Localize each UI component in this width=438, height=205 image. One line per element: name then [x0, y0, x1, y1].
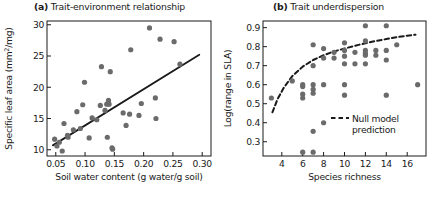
data-point: [153, 95, 158, 100]
data-point: [363, 38, 368, 43]
y-tick-label: 0.3: [246, 136, 260, 147]
data-point: [384, 57, 389, 62]
data-point: [65, 135, 70, 140]
data-point: [300, 150, 305, 155]
null-model-curve: [272, 35, 415, 113]
data-point: [60, 148, 65, 153]
data-point: [78, 126, 83, 131]
legend-label-line1: Null model: [352, 113, 399, 124]
data-point: [363, 23, 368, 28]
legend-label-line2: prediction: [352, 124, 396, 135]
x-axis-title: Soil water content (g water/g soil): [55, 171, 202, 182]
y-tick-label: 20: [33, 82, 45, 93]
data-point: [311, 82, 316, 87]
data-point: [147, 25, 152, 30]
y-axis-title: Specific leaf area (mm2/mg): [3, 27, 14, 149]
data-point: [415, 82, 420, 87]
data-point: [363, 53, 368, 58]
data-point: [269, 95, 274, 100]
data-point: [352, 61, 357, 66]
data-point: [123, 123, 128, 128]
data-point: [94, 117, 99, 122]
y-tick-label: 15: [33, 113, 45, 124]
data-point: [363, 61, 368, 66]
data-point: [80, 102, 85, 107]
data-point: [57, 140, 62, 145]
data-point: [394, 42, 399, 47]
data-point: [110, 147, 115, 152]
x-tick-label: 6: [300, 158, 306, 169]
x-tick-label: 10: [339, 158, 351, 169]
data-point: [153, 116, 158, 121]
x-tick-label: 4: [279, 158, 285, 169]
data-point: [311, 129, 316, 134]
x-tick-label: 16: [402, 158, 414, 169]
y-tick-label: 0.4: [246, 117, 260, 128]
data-point: [52, 137, 57, 142]
y-tick-label: 10: [33, 144, 45, 155]
x-tick-label: 0.05: [46, 158, 66, 169]
data-point: [384, 48, 389, 53]
data-point: [136, 113, 141, 118]
data-point: [384, 93, 389, 98]
data-point: [90, 115, 95, 120]
x-axis-title: Species richness: [308, 171, 381, 182]
data-point: [311, 91, 316, 96]
data-point: [300, 95, 305, 100]
x-tick-label: 8: [321, 158, 327, 169]
y-tick-label: 30: [33, 19, 45, 30]
data-point: [106, 102, 111, 107]
data-point: [172, 39, 177, 44]
panel-b-plot: 0.30.40.50.60.70.80.946810121416Species …: [219, 0, 438, 205]
data-point: [321, 120, 326, 125]
data-point: [342, 93, 347, 98]
figure-container: (a) Trait-environment relationship 10152…: [0, 0, 438, 205]
data-point: [373, 53, 378, 58]
data-point: [121, 110, 126, 115]
x-tick-label: 0.30: [193, 158, 213, 169]
y-axis-title: Log(range in SLA): [222, 50, 233, 128]
y-tick-label: 0.7: [246, 60, 260, 71]
data-point: [82, 80, 87, 85]
x-tick-label: 0.25: [163, 158, 183, 169]
data-point: [342, 54, 347, 59]
data-point: [342, 48, 347, 53]
data-point: [139, 101, 144, 106]
data-point: [74, 109, 79, 114]
data-point: [342, 61, 347, 66]
data-point: [108, 69, 113, 74]
y-tick-label: 25: [33, 50, 45, 61]
data-point: [321, 82, 326, 87]
data-point: [87, 135, 92, 140]
panel-trait-environment: (a) Trait-environment relationship 10152…: [0, 0, 219, 205]
y-tick-label: 0.8: [246, 41, 260, 52]
x-tick-label: 0.15: [105, 158, 125, 169]
data-point: [127, 112, 132, 117]
data-point: [331, 55, 336, 60]
data-point: [102, 108, 107, 113]
panel-a-plot: 10152025300.050.100.150.200.250.30Soil w…: [0, 0, 219, 205]
data-point: [321, 55, 326, 60]
data-point: [128, 47, 133, 52]
data-point: [177, 62, 182, 67]
x-tick-label: 0.10: [75, 158, 95, 169]
data-point: [300, 82, 305, 87]
data-point: [331, 50, 336, 55]
data-point: [352, 50, 357, 55]
data-point: [71, 127, 76, 132]
x-tick-label: 12: [360, 158, 371, 169]
data-point: [99, 64, 104, 69]
data-point: [321, 46, 326, 51]
data-point: [311, 63, 316, 68]
data-point: [98, 103, 103, 108]
panel-trait-underdispersion: (b) Trait underdispersion 0.30.40.50.60.…: [219, 0, 438, 205]
data-point: [342, 40, 347, 45]
y-tick-label: 0.6: [246, 79, 260, 90]
data-point: [342, 82, 347, 87]
data-point: [61, 121, 66, 126]
data-point: [384, 23, 389, 28]
plot-frame: [47, 21, 211, 156]
data-point: [373, 48, 378, 53]
data-point: [311, 150, 316, 155]
data-point: [290, 78, 295, 83]
